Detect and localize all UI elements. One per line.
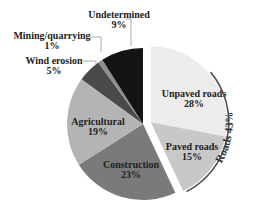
slice-label: Wind erosion5% (25, 55, 83, 76)
leader-line (126, 19, 131, 46)
slice-label: Mining/quarrying1% (13, 30, 90, 51)
leader-line (89, 37, 101, 52)
leader-line (83, 61, 96, 64)
pie-chart: Unpaved roads28%Paved roads15%Constructi… (0, 0, 254, 221)
slice-label: Undetermined9% (88, 9, 150, 30)
